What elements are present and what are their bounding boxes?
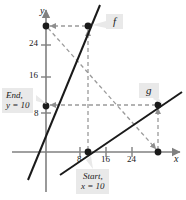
leader-start [86, 156, 93, 169]
callout-end-line2: y = 10 [6, 100, 30, 110]
y-tick-label-16: 16 [29, 70, 38, 80]
x-axis-label: x [174, 153, 178, 164]
point-start-x-10 [85, 149, 92, 156]
y-axis-label: y [40, 5, 44, 16]
callout-function-g: g [139, 83, 159, 98]
leader-f [92, 21, 106, 28]
callout-f-label: f [113, 15, 116, 27]
callout-start-line2: x = 10 [81, 181, 105, 191]
x-tick-label-16: 16 [101, 154, 110, 164]
y-tick-label-24: 24 [29, 38, 38, 48]
point-y-30 [43, 23, 50, 30]
math-figure: y x 24 16 8 8 16 24 f g End, y = 10 Star… [0, 0, 186, 200]
point-x-28 [155, 149, 162, 156]
point-f-at-10 [85, 23, 92, 30]
callout-end-line1: End, [6, 90, 30, 100]
y-tick-label-8: 8 [34, 108, 39, 118]
callout-function-f: f [106, 14, 123, 29]
callout-end: End, y = 10 [2, 88, 33, 113]
callout-start-line1: Start, [81, 171, 105, 181]
x-tick-label-24: 24 [127, 154, 136, 164]
callout-start: Start, x = 10 [76, 169, 109, 194]
x-tick-label-8: 8 [77, 154, 82, 164]
callout-g-label: g [146, 84, 152, 96]
